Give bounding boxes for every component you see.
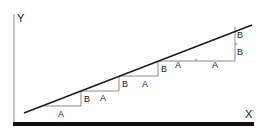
step-4-rise-b-label: B bbox=[237, 47, 243, 57]
step-3-rise-label: B bbox=[161, 64, 167, 74]
step-4 bbox=[158, 27, 235, 61]
y-axis-label: Y bbox=[17, 12, 25, 24]
step-1-rise-label: B bbox=[84, 94, 90, 104]
step-4-rise-a-label: B bbox=[237, 30, 243, 40]
step-4-run-a-label: A bbox=[175, 60, 181, 70]
x-axis bbox=[13, 122, 254, 126]
step-2-rise-label: B bbox=[122, 79, 128, 89]
x-axis-label: X bbox=[245, 108, 253, 120]
step-3-run-label: A bbox=[142, 79, 148, 89]
step-1-run-label: A bbox=[58, 109, 64, 119]
slope-diagram: Y X A B A B A B A A B B bbox=[0, 0, 267, 136]
step-4-run-b-label: A bbox=[212, 60, 218, 70]
step-2-run-label: A bbox=[100, 93, 106, 103]
